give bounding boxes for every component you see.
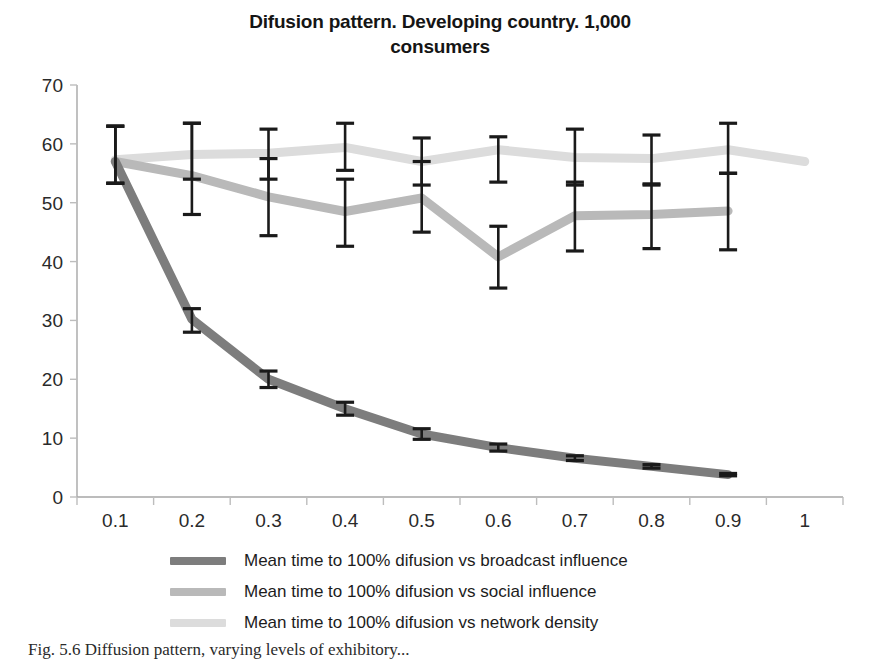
y-tick-label: 40 <box>42 252 63 273</box>
figure-caption: Fig. 5.6 Diffusion pattern, varying leve… <box>28 640 858 660</box>
x-tick-label: 0.4 <box>332 510 359 531</box>
x-tick-label: 0.9 <box>715 510 741 531</box>
y-tick-label: 10 <box>42 428 63 449</box>
chart-legend: Mean time to 100% difusion vs broadcast … <box>170 545 730 638</box>
x-tick-label: 1 <box>799 510 810 531</box>
x-tick-label: 0.3 <box>255 510 281 531</box>
x-tick-label: 0.5 <box>408 510 434 531</box>
error-bar <box>719 473 737 475</box>
x-tick-labels: 0.10.20.30.40.50.60.70.80.91 <box>102 510 810 531</box>
y-tick-label: 0 <box>52 487 63 508</box>
legend-swatch-social <box>170 588 226 596</box>
error-bar <box>489 137 507 182</box>
legend-item-network: Mean time to 100% difusion vs network de… <box>170 607 730 638</box>
legend-swatch-network <box>170 619 226 627</box>
x-tick-label: 0.2 <box>179 510 205 531</box>
legend-item-broadcast: Mean time to 100% difusion vs broadcast … <box>170 545 730 576</box>
x-tick-label: 0.7 <box>562 510 588 531</box>
y-tick-labels: 010203040506070 <box>42 75 63 508</box>
series-line <box>115 147 804 161</box>
plot-area: 010203040506070 0.10.20.30.40.50.60.70.8… <box>0 0 874 540</box>
y-tick-label: 20 <box>42 369 63 390</box>
y-tick-label: 30 <box>42 310 63 331</box>
y-tick-label: 60 <box>42 134 63 155</box>
y-tick-label: 50 <box>42 193 63 214</box>
legend-item-social: Mean time to 100% difusion vs social inf… <box>170 576 730 607</box>
legend-swatch-broadcast <box>170 557 226 565</box>
x-tick-label: 0.1 <box>102 510 128 531</box>
series-group <box>115 147 804 474</box>
x-tick-label: 0.6 <box>485 510 511 531</box>
legend-label-broadcast: Mean time to 100% difusion vs broadcast … <box>244 551 628 571</box>
chart-figure: Difusion pattern. Developing country. 1,… <box>0 0 874 669</box>
y-tick-label: 70 <box>42 75 63 96</box>
legend-label-social: Mean time to 100% difusion vs social inf… <box>244 582 596 602</box>
legend-label-network: Mean time to 100% difusion vs network de… <box>244 613 598 633</box>
x-tick-label: 0.8 <box>638 510 664 531</box>
